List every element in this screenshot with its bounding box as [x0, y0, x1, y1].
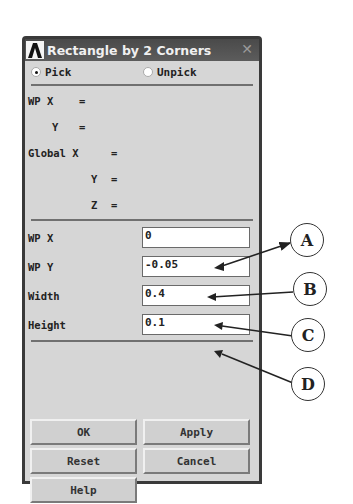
- callout-a: A: [290, 223, 324, 257]
- callout-d: D: [291, 367, 325, 401]
- callout-b: B: [293, 272, 327, 306]
- callout-c: C: [291, 318, 325, 352]
